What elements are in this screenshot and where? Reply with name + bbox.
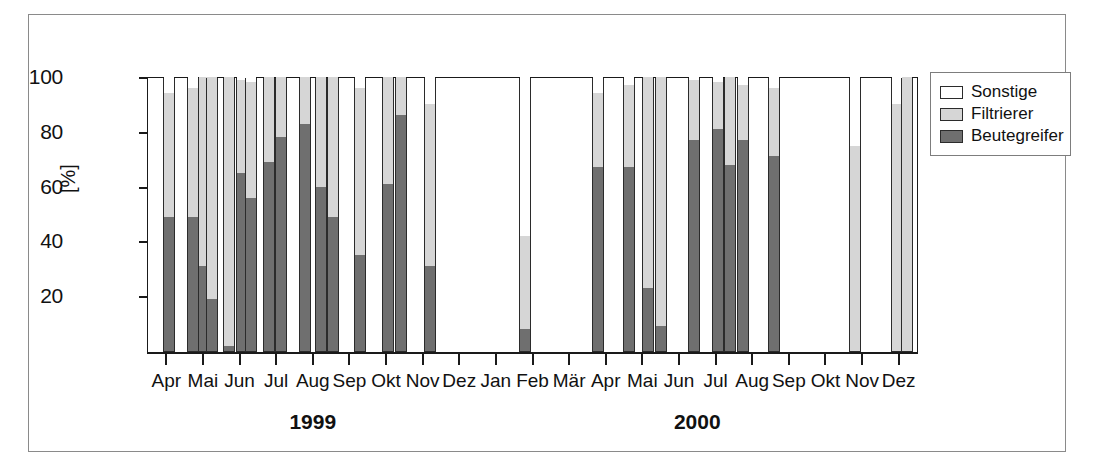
stacked-bar (623, 78, 635, 352)
legend-swatch-filtrierer (940, 108, 963, 121)
x-axis-tick (348, 354, 350, 365)
bar-segment-filtrierer (300, 77, 310, 124)
bar-segment-beutegreifer (164, 217, 174, 351)
bar-segment-sonstige (246, 77, 256, 82)
x-axis-tick (532, 354, 534, 365)
legend-label-sonstige: Sonstige (971, 82, 1037, 102)
x-axis-month-label: Dez (869, 370, 929, 392)
bar-segment-beutegreifer (207, 299, 217, 351)
bar-segment-filtrierer (224, 77, 234, 346)
bar-segment-sonstige (713, 77, 723, 82)
y-axis-title: [%] (57, 164, 80, 193)
bar-segment-beutegreifer (656, 326, 666, 351)
bar-segment-filtrierer (383, 77, 393, 184)
x-axis-tick (495, 354, 497, 365)
bar-segment-beutegreifer (738, 140, 748, 351)
bar-segment-beutegreifer (188, 217, 198, 351)
x-axis-tick (715, 354, 717, 365)
x-axis-tick (239, 354, 241, 365)
legend-swatch-sonstige (940, 86, 963, 99)
bar-segment-filtrierer (643, 77, 653, 288)
bar-segment-filtrierer (246, 82, 256, 197)
stacked-bar (354, 78, 366, 352)
bar-segment-beutegreifer (246, 198, 256, 351)
y-axis-tick-label: 60 (3, 175, 63, 199)
bar-segment-beutegreifer (224, 346, 234, 351)
legend-item-sonstige: Sonstige (940, 81, 1062, 103)
x-axis-tick (751, 354, 753, 365)
plot-area (148, 78, 917, 352)
bar-segment-filtrierer (264, 77, 274, 162)
x-axis-tick (788, 354, 790, 365)
bar-segment-beutegreifer (383, 184, 393, 351)
x-axis-tick (861, 354, 863, 365)
bar-segment-sonstige (593, 77, 603, 93)
bar-segment-beutegreifer (769, 156, 779, 351)
x-axis-tick (165, 354, 167, 365)
bar-segment-sonstige (355, 77, 365, 88)
y-axis-tick (139, 77, 148, 79)
stacked-bar (327, 78, 339, 352)
bar-segment-filtrierer (328, 77, 338, 217)
bar-segment-filtrierer (188, 88, 198, 217)
stacked-bar (737, 78, 749, 352)
stacked-bar (395, 78, 407, 352)
y-axis-tick-label: 100 (3, 65, 63, 89)
bar-segment-beutegreifer (713, 129, 723, 351)
y-axis-tick (139, 296, 148, 298)
bar-segment-beutegreifer (425, 266, 435, 351)
bar-segment-sonstige (188, 77, 198, 88)
bar-segment-filtrierer (769, 88, 779, 157)
bar-segment-filtrierer (738, 85, 748, 140)
bar-segment-beutegreifer (355, 255, 365, 351)
bar-segment-filtrierer (207, 77, 217, 299)
bar-segment-sonstige (850, 77, 860, 146)
legend: SonstigeFiltriererBeutegreifer (930, 72, 1071, 156)
stacked-bar (275, 78, 287, 352)
bar-segment-filtrierer (164, 93, 174, 216)
bar-segment-filtrierer (593, 93, 603, 167)
x-axis-tick (568, 354, 570, 365)
x-axis-tick (202, 354, 204, 365)
stacked-bar (724, 78, 736, 352)
bar-segment-beutegreifer (276, 137, 286, 351)
bar-segment-beutegreifer (264, 162, 274, 351)
figure-frame: 20406080100 [%] AprMaiJunJulAugSepOktNov… (28, 14, 1066, 452)
y-axis-tick-label: 40 (3, 229, 63, 253)
bar-segment-sonstige (769, 77, 779, 88)
bar-segment-beutegreifer (593, 167, 603, 351)
x-axis-tick (385, 354, 387, 365)
bar-segment-filtrierer (355, 88, 365, 255)
stacked-bar (592, 78, 604, 352)
bar-segment-beutegreifer (316, 187, 326, 351)
x-axis-tick (312, 354, 314, 365)
stacked-bar (315, 78, 327, 352)
bar-segment-filtrierer (316, 77, 326, 187)
bar-segment-beutegreifer (725, 165, 735, 351)
stacked-bar (655, 78, 667, 352)
x-axis-tick (458, 354, 460, 365)
bar-segment-beutegreifer (689, 140, 699, 351)
bar-segment-filtrierer (902, 77, 912, 351)
y-axis-tick (139, 241, 148, 243)
bar-segment-beutegreifer (300, 124, 310, 351)
bar-segment-filtrierer (624, 85, 634, 167)
stacked-bar (263, 78, 275, 352)
bar-segment-sonstige (624, 77, 634, 85)
bar-segment-sonstige (689, 77, 699, 80)
bar-segment-sonstige (520, 77, 530, 236)
x-axis-tick (605, 354, 607, 365)
bar-segment-sonstige (738, 77, 748, 85)
bar-segment-beutegreifer (643, 288, 653, 351)
stacked-bar (245, 78, 257, 352)
y-axis-tick-label: 80 (3, 120, 63, 144)
stacked-bar (688, 78, 700, 352)
legend-item-beutegreifer: Beutegreifer (940, 125, 1062, 147)
bar-segment-filtrierer (725, 77, 735, 165)
x-axis-tick (422, 354, 424, 365)
bar-segment-sonstige (425, 77, 435, 104)
bar-segment-beutegreifer (520, 329, 530, 351)
bar-segment-filtrierer (656, 77, 666, 326)
stacked-bar (901, 78, 913, 352)
bar-segment-sonstige (164, 77, 174, 93)
